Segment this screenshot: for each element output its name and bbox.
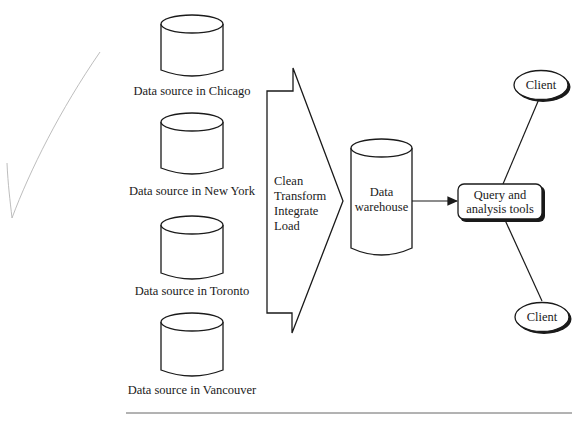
source-label-new-york: Data source in New York <box>129 184 256 198</box>
source-cylinder-new-york: Data source in New York <box>129 113 256 198</box>
client-label-bottom: Client <box>527 310 558 324</box>
tools-to-client-top-line <box>503 99 539 184</box>
source-cylinder-chicago: Data source in Chicago <box>134 15 251 98</box>
client-ellipse-bottom: Client <box>515 303 572 335</box>
etl-step-clean: Clean <box>274 174 304 188</box>
tools-label-line2: analysis tools <box>466 202 534 216</box>
client-ellipse-top: Client <box>514 71 571 103</box>
tools-label-line1: Query and <box>474 188 527 202</box>
tools-to-client-bottom-line <box>505 220 542 301</box>
source-cylinder-toronto: Data source in Toronto <box>135 216 250 298</box>
warehouse-label-line1: Data <box>370 185 394 199</box>
source-label-chicago: Data source in Chicago <box>134 84 251 98</box>
data-warehouse-cylinder: Data warehouse <box>351 139 412 255</box>
source-label-toronto: Data source in Toronto <box>135 284 250 298</box>
etl-step-integrate: Integrate <box>274 204 319 218</box>
source-cylinder-vancouver: Data source in Vancouver <box>128 313 257 397</box>
source-label-vancouver: Data source in Vancouver <box>128 383 257 397</box>
client-label-top: Client <box>526 78 557 92</box>
etl-step-transform: Transform <box>274 189 327 203</box>
query-analysis-tools-box: Query and analysis tools <box>458 184 545 222</box>
checkmark-annotation <box>7 52 100 218</box>
etl-step-load: Load <box>274 219 300 233</box>
data-warehouse-diagram: Data source in Chicago Data source in Ne… <box>0 0 587 422</box>
etl-process-arrow: Clean Transform Integrate Load <box>267 68 343 333</box>
warehouse-label-line2: warehouse <box>355 200 409 214</box>
